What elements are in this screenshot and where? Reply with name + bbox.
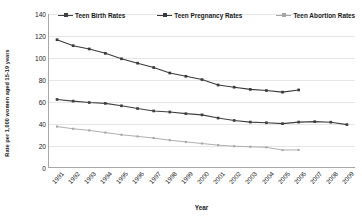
data-point-marker <box>265 89 268 92</box>
series-line <box>57 99 347 124</box>
x-axis-tick: 2002 <box>228 170 243 185</box>
data-point-marker <box>56 126 58 128</box>
data-point-marker <box>297 89 300 92</box>
data-point-marker <box>201 142 203 144</box>
data-point-marker <box>217 117 220 120</box>
data-point-marker <box>265 146 267 148</box>
data-point-marker <box>217 84 220 87</box>
y-axis-title: Rate per 1,000 women aged 15-19 years <box>0 28 14 178</box>
data-point-marker <box>201 114 204 117</box>
legend-label: Teen Birth Rates <box>75 12 125 19</box>
data-point-marker <box>136 107 139 110</box>
data-point-marker <box>281 91 284 94</box>
x-axis-tick: 2009 <box>341 170 356 185</box>
x-axis-tick: 2008 <box>325 170 340 185</box>
x-axis-tick: 1998 <box>163 170 178 185</box>
data-point-marker <box>88 101 91 104</box>
data-point-marker <box>233 145 235 147</box>
data-point-marker <box>120 57 123 60</box>
data-point-marker <box>168 111 171 114</box>
data-point-marker <box>249 121 252 124</box>
data-point-marker <box>265 121 268 124</box>
data-point-marker <box>313 120 316 123</box>
plot-area <box>48 14 355 168</box>
x-axis-tick: 2005 <box>276 170 291 185</box>
legend-marker-icon <box>276 12 291 19</box>
data-point-marker <box>104 102 107 105</box>
y-axis-tick: 60 <box>20 99 46 106</box>
data-point-marker <box>201 78 204 81</box>
legend-marker-icon <box>58 12 73 19</box>
x-axis-tick: 1991 <box>50 170 65 185</box>
y-axis-tick: 80 <box>20 77 46 84</box>
data-point-marker <box>152 66 155 69</box>
data-point-marker <box>233 119 236 122</box>
data-point-marker <box>136 62 139 65</box>
data-point-marker <box>56 98 59 101</box>
y-axis-tick: 40 <box>20 121 46 128</box>
x-axis-tick: 2007 <box>309 170 324 185</box>
x-axis-tick: 1993 <box>82 170 97 185</box>
x-axis-tick: 2004 <box>260 170 275 185</box>
x-axis-tick: 2000 <box>195 170 210 185</box>
x-axis-tick: 1995 <box>115 170 130 185</box>
data-point-marker <box>169 139 171 141</box>
data-point-marker <box>104 52 107 55</box>
data-point-marker <box>72 100 75 103</box>
x-axis-tick: 2001 <box>212 170 227 185</box>
chart-legend: Teen Birth RatesTeen Pregnancy RatesTeen… <box>52 9 352 21</box>
x-axis-tick: 2006 <box>292 170 307 185</box>
teen-rates-line-chart: Rate per 1,000 women aged 15-19 years 02… <box>0 0 362 219</box>
legend-label: Teen Abortion Rates <box>293 12 355 19</box>
y-axis-tick: 0 <box>20 165 46 172</box>
series-lines <box>49 14 355 167</box>
data-point-marker <box>72 128 74 130</box>
y-axis-title-text: Rate per 1,000 women aged 15-19 years <box>4 49 10 156</box>
data-point-marker <box>185 75 188 78</box>
data-point-marker <box>88 129 90 131</box>
x-axis-tick: 1992 <box>66 170 81 185</box>
x-axis-tick-labels: 1991199219931994199519961997199819992000… <box>48 170 355 204</box>
y-axis-tick: 20 <box>20 143 46 150</box>
legend-item: Teen Pregnancy Rates <box>157 12 242 19</box>
legend-marker-icon <box>157 12 172 19</box>
data-point-marker <box>249 146 251 148</box>
x-axis-tick: 1996 <box>131 170 146 185</box>
data-point-marker <box>137 135 139 137</box>
data-point-marker <box>217 144 219 146</box>
data-point-marker <box>281 149 283 151</box>
x-axis-title: Year <box>48 204 355 211</box>
data-point-marker <box>120 104 123 107</box>
data-point-marker <box>88 48 91 51</box>
data-point-marker <box>168 72 171 75</box>
data-point-marker <box>346 123 349 126</box>
data-point-marker <box>281 122 284 125</box>
x-axis-tick: 1994 <box>99 170 114 185</box>
series-line <box>57 127 299 150</box>
data-point-marker <box>153 137 155 139</box>
y-axis-tick: 100 <box>20 55 46 62</box>
y-axis-tick-labels: 020406080100120140 <box>16 0 46 219</box>
y-axis-tick: 140 <box>20 11 46 18</box>
x-axis-tick: 1999 <box>179 170 194 185</box>
data-point-marker <box>56 38 59 41</box>
data-point-marker <box>297 121 300 124</box>
x-axis-tick: 1997 <box>147 170 162 185</box>
data-point-marker <box>298 149 300 151</box>
x-axis-tick: 2003 <box>244 170 259 185</box>
data-point-marker <box>120 134 122 136</box>
legend-label: Teen Pregnancy Rates <box>174 12 242 19</box>
series-line <box>57 40 299 92</box>
data-point-marker <box>104 132 106 134</box>
data-point-marker <box>329 121 332 124</box>
data-point-marker <box>249 88 252 91</box>
y-axis-tick: 120 <box>20 33 46 40</box>
data-point-marker <box>185 112 188 115</box>
data-point-marker <box>185 141 187 143</box>
data-point-marker <box>233 86 236 89</box>
legend-item: Teen Abortion Rates <box>276 12 355 19</box>
legend-item: Teen Birth Rates <box>58 12 125 19</box>
data-point-marker <box>72 44 75 47</box>
data-point-marker <box>152 110 155 113</box>
